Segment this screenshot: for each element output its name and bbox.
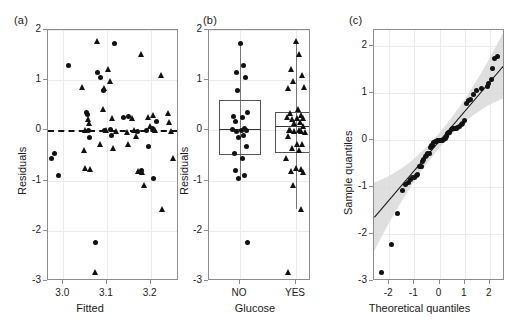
data-point-circle bbox=[419, 164, 424, 169]
y-tick-mark bbox=[43, 129, 47, 130]
data-point-triangle bbox=[103, 127, 109, 133]
data-point-triangle bbox=[290, 182, 296, 188]
data-point-triangle bbox=[285, 133, 291, 139]
gridline-horizontal bbox=[48, 80, 177, 81]
data-point-triangle bbox=[298, 206, 304, 212]
data-point-circle bbox=[243, 75, 248, 80]
data-point-triangle bbox=[168, 128, 174, 134]
panel-b: (b) Residuals Glucose -3-2-1012NOYES bbox=[180, 0, 330, 327]
data-point-circle bbox=[479, 86, 484, 91]
x-tick-mark bbox=[489, 280, 490, 284]
plot-area-a bbox=[47, 29, 178, 280]
data-point-triangle bbox=[107, 78, 113, 84]
data-point-triangle bbox=[92, 269, 98, 275]
data-point-triangle bbox=[110, 145, 116, 151]
data-point-circle bbox=[154, 119, 159, 124]
data-point-triangle bbox=[288, 66, 294, 72]
x-tick-mark bbox=[295, 280, 296, 284]
data-point-triangle bbox=[86, 120, 92, 126]
y-tick-label: 0 bbox=[196, 123, 202, 134]
data-point-triangle bbox=[87, 166, 93, 172]
x-tick-label-yes: YES bbox=[275, 287, 315, 298]
x-tick-mark bbox=[62, 280, 63, 284]
y-tick-mark bbox=[43, 230, 47, 231]
x-axis-title-a: Fitted bbox=[0, 302, 180, 314]
y-tick-label: 2 bbox=[35, 23, 41, 34]
data-point-triangle bbox=[109, 115, 115, 121]
data-point-triangle bbox=[291, 120, 297, 126]
data-point-triangle bbox=[138, 51, 144, 57]
data-point-circle bbox=[144, 128, 149, 133]
data-point-triangle bbox=[82, 127, 88, 133]
x-tick-mark bbox=[464, 280, 465, 284]
data-point-triangle bbox=[166, 119, 172, 125]
data-point-triangle bbox=[81, 147, 87, 153]
data-point-circle bbox=[241, 63, 246, 68]
data-point-circle bbox=[56, 173, 61, 178]
plot-area-b bbox=[208, 29, 310, 280]
y-tick-mark bbox=[204, 29, 208, 30]
x-tick-mark bbox=[439, 280, 440, 284]
data-point-triangle bbox=[124, 129, 130, 135]
data-point-triangle bbox=[295, 106, 301, 112]
data-point-triangle bbox=[299, 72, 305, 78]
data-point-circle bbox=[240, 156, 245, 161]
gridline-horizontal bbox=[48, 231, 177, 232]
data-point-circle bbox=[121, 115, 126, 120]
data-point-circle bbox=[462, 118, 467, 123]
data-point-circle bbox=[242, 173, 247, 178]
y-axis-title-b: Residuals bbox=[178, 147, 190, 195]
data-point-triangle bbox=[101, 85, 107, 91]
data-point-triangle bbox=[100, 106, 106, 112]
gridline-horizontal bbox=[48, 30, 177, 31]
y-tick-mark bbox=[369, 186, 373, 187]
data-point-triangle bbox=[165, 110, 171, 116]
data-point-triangle bbox=[296, 51, 302, 57]
data-point-circle bbox=[93, 240, 98, 245]
gridline-horizontal bbox=[209, 30, 309, 31]
data-point-circle bbox=[49, 156, 54, 161]
y-tick-mark bbox=[204, 180, 208, 181]
y-tick-label: 1 bbox=[35, 73, 41, 84]
data-point-circle bbox=[52, 151, 57, 156]
data-point-circle bbox=[87, 135, 92, 140]
data-point-triangle bbox=[125, 141, 131, 147]
data-point-triangle bbox=[105, 66, 111, 72]
data-point-triangle bbox=[300, 169, 306, 175]
x-axis-title-c: Theoretical quantiles bbox=[330, 302, 509, 314]
data-point-circle bbox=[112, 41, 117, 46]
y-tick-label: -3 bbox=[193, 274, 202, 285]
panel-b-tag: (b) bbox=[203, 14, 217, 26]
panel-c-tag: (c) bbox=[349, 14, 362, 26]
data-point-circle bbox=[233, 168, 238, 173]
data-point-triangle bbox=[170, 155, 176, 161]
y-tick-label: -1 bbox=[358, 180, 367, 191]
x-tick-label: 3.2 bbox=[130, 287, 170, 298]
y-tick-label: -3 bbox=[358, 274, 367, 285]
y-tick-mark bbox=[369, 280, 373, 281]
y-tick-label: -2 bbox=[193, 224, 202, 235]
y-tick-label: -2 bbox=[32, 224, 41, 235]
y-tick-label: -1 bbox=[32, 174, 41, 185]
data-point-circle bbox=[98, 75, 103, 80]
y-tick-label: -1 bbox=[193, 174, 202, 185]
y-tick-mark bbox=[369, 45, 373, 46]
plot-area-c bbox=[373, 29, 504, 280]
data-point-circle bbox=[379, 270, 384, 275]
data-point-triangle bbox=[283, 155, 289, 161]
x-tick-mark bbox=[150, 280, 151, 284]
y-tick-mark bbox=[369, 92, 373, 93]
y-axis-title-c: Sample quantiles bbox=[342, 131, 354, 215]
data-point-triangle bbox=[129, 115, 135, 121]
data-point-circle bbox=[151, 176, 156, 181]
y-tick-label: 2 bbox=[361, 39, 367, 50]
y-tick-label: -3 bbox=[32, 274, 41, 285]
panel-a: (a) Residuals Fitted 3.03.13.2-3-2-1012 bbox=[0, 0, 180, 327]
panel-c: (c) Sample quantiles Theoretical quantil… bbox=[330, 0, 509, 327]
data-point-circle bbox=[239, 128, 244, 133]
x-tick-label-no: NO bbox=[219, 287, 259, 298]
y-tick-label: 0 bbox=[361, 133, 367, 144]
data-point-triangle bbox=[141, 182, 147, 188]
y-axis-title-a: Residuals bbox=[16, 147, 28, 195]
y-tick-label: 0 bbox=[35, 123, 41, 134]
